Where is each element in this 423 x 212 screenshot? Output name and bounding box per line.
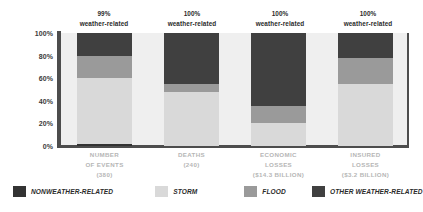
y-axis-tick-labels: 100%80%60%40%20%0% [0, 33, 53, 146]
annotation-percent: 100% [324, 9, 412, 19]
legend-item-other-weather-related[interactable]: OTHER WEATHER-RELATED [312, 186, 423, 197]
category-line1: ECONOMIC [235, 150, 322, 160]
bar-segment-other-weather-related[interactable] [77, 33, 132, 56]
bar-segment-other-weather-related[interactable] [338, 33, 393, 58]
bar-column-2 [235, 33, 322, 146]
category-line2: OF EVENTS [61, 160, 148, 170]
category-label-0: NUMBER OF EVENTS (380) [61, 150, 148, 178]
category-label-2: ECONOMIC LOSSES ($14.3 BILLION) [235, 150, 322, 178]
annotation-1: 100% weather-related [148, 9, 236, 31]
legend-item-nonweather-related[interactable]: NONWEATHER-RELATED [13, 186, 113, 197]
bar-segment-other-weather-related[interactable] [164, 33, 219, 84]
legend-swatch [155, 186, 168, 197]
y-axis-tick: 80% [0, 52, 53, 59]
annotation-row: 99% weather-related 100% weather-related… [60, 9, 412, 31]
y-axis-tick: 0% [0, 143, 53, 150]
legend-label: FLOOD [262, 188, 286, 195]
stacked-bar[interactable] [251, 33, 306, 146]
category-line1: DEATHS [148, 150, 235, 160]
stacked-bar[interactable] [77, 33, 132, 146]
legend-label: OTHER WEATHER-RELATED [330, 188, 423, 195]
bar-segment-nonweather-related[interactable] [77, 144, 132, 146]
annotation-sublabel: weather-related [324, 19, 412, 29]
legend-item-flood[interactable]: FLOOD [244, 186, 286, 197]
bar-segment-storm[interactable] [164, 92, 219, 146]
stacked-bar[interactable] [338, 33, 393, 146]
annotation-percent: 99% [60, 9, 148, 19]
legend-swatch [244, 186, 257, 197]
bar-column-3 [322, 33, 409, 146]
annotation-percent: 100% [148, 9, 236, 19]
bar-segment-storm[interactable] [77, 78, 132, 144]
stacked-bar[interactable] [164, 33, 219, 146]
category-label-1: DEATHS (240) [148, 150, 235, 178]
category-label-3: INSURED LOSSES ($3.2 BILLION) [322, 150, 409, 178]
category-line3: ($3.2 BILLION) [322, 170, 409, 180]
legend-label: STORM [173, 188, 197, 195]
legend-label: NONWEATHER-RELATED [31, 188, 113, 195]
annotation-2: 100% weather-related [236, 9, 324, 31]
annotation-sublabel: weather-related [236, 19, 324, 29]
bar-column-1 [148, 33, 235, 146]
category-line3: ($14.3 BILLION) [235, 170, 322, 180]
category-line2: LOSSES [322, 160, 409, 170]
y-axis-tick: 60% [0, 75, 53, 82]
bar-segment-flood[interactable] [338, 58, 393, 84]
bar-segment-flood[interactable] [164, 84, 219, 92]
annotation-0: 99% weather-related [60, 9, 148, 31]
bar-segment-other-weather-related[interactable] [251, 33, 306, 106]
bar-segment-storm[interactable] [251, 123, 306, 146]
category-line2: LOSSES [235, 160, 322, 170]
category-line1: INSURED [322, 150, 409, 160]
x-axis-category-labels: NUMBER OF EVENTS (380) DEATHS (240) ECON… [61, 150, 409, 178]
legend-item-storm[interactable]: STORM [155, 186, 197, 197]
annotation-3: 100% weather-related [324, 9, 412, 31]
bar-segment-flood[interactable] [77, 56, 132, 79]
legend-swatch [13, 186, 26, 197]
annotation-sublabel: weather-related [148, 19, 236, 29]
category-line3: (380) [61, 170, 148, 180]
legend-swatch [312, 186, 325, 197]
annotation-percent: 100% [236, 9, 324, 19]
legend: NONWEATHER-RELATED STORM FLOOD OTHER WEA… [13, 182, 409, 200]
bar-column-0 [61, 33, 148, 146]
bar-segment-flood[interactable] [251, 106, 306, 123]
annotation-sublabel: weather-related [60, 19, 148, 29]
category-line1: NUMBER [61, 150, 148, 160]
category-line2: (240) [148, 160, 235, 170]
bar-segment-storm[interactable] [338, 84, 393, 146]
y-axis-tick: 40% [0, 97, 53, 104]
bar-group [61, 33, 409, 146]
y-axis-tick: 20% [0, 120, 53, 127]
y-axis-tick: 100% [0, 30, 53, 37]
